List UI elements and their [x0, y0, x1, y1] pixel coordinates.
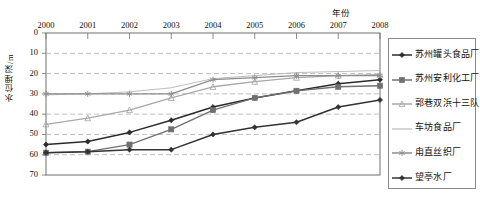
x-tick-label-2003: 2003	[151, 20, 191, 30]
y-tick-label-30: 30	[10, 88, 38, 98]
legend-item-label: 车坊食品厂	[415, 120, 461, 133]
y-tick-label-20: 20	[10, 68, 38, 78]
data-point-marker	[210, 107, 215, 112]
x-tick-label-2001: 2001	[68, 20, 108, 30]
y-tick-label-40: 40	[10, 108, 38, 118]
data-point-marker	[399, 52, 404, 57]
legend-item-label: 苏州安利化工厂	[415, 71, 479, 84]
x-tick-label-2007: 2007	[318, 20, 358, 30]
legend-item-label: 甪直丝织厂	[415, 145, 461, 158]
data-point-marker	[399, 77, 404, 82]
legend-marker-diamond-icon	[392, 170, 412, 182]
legend-marker-square-icon	[392, 72, 412, 84]
x-tick-label-2002: 2002	[110, 20, 150, 30]
legend-marker-diamond-icon	[392, 47, 412, 59]
legend-item-5[interactable]: 甪直丝织厂	[392, 139, 461, 163]
legend-marker-asterisk-icon	[392, 145, 412, 157]
legend-item-4[interactable]: 车坊食品厂	[392, 115, 461, 139]
y-tick-label-70: 70	[10, 169, 38, 179]
legend-item-label: 苏州罐头食品厂	[415, 47, 479, 60]
legend-item-6[interactable]: 望亭水厂	[392, 164, 452, 188]
legend-item-label: 郭巷双浜十三队	[415, 96, 479, 109]
legend-item-label: 望亭水厂	[415, 170, 452, 183]
x-axis-title: 年份	[332, 6, 351, 18]
x-tick-label-2004: 2004	[193, 20, 233, 30]
y-tick-label-60: 60	[10, 149, 38, 159]
data-point-marker	[377, 83, 382, 88]
data-point-marker	[252, 95, 257, 100]
y-tick-label-0: 0	[10, 27, 38, 37]
legend-marker-line-icon	[392, 121, 412, 133]
data-point-marker	[294, 88, 299, 93]
x-tick-label-2006: 2006	[277, 20, 317, 30]
y-tick-label-10: 10	[10, 47, 38, 57]
plot-frame	[46, 33, 380, 175]
legend-item-2[interactable]: 苏州安利化工厂	[392, 66, 479, 90]
data-point-marker	[169, 127, 174, 132]
legend-item-1[interactable]: 苏州罐头食品厂	[392, 41, 479, 65]
data-point-marker	[399, 175, 404, 180]
data-point-marker	[336, 84, 341, 89]
data-point-marker	[127, 142, 132, 147]
legend-item-3[interactable]: 郭巷双浜十三队	[392, 90, 479, 114]
legend-marker-triangle-icon	[392, 96, 412, 108]
legend: 苏州罐头食品厂苏州安利化工厂郭巷双浜十三队车坊食品厂甪直丝织厂望亭水厂	[388, 38, 476, 189]
y-tick-label-50: 50	[10, 128, 38, 138]
x-tick-label-2008: 2008	[360, 20, 400, 30]
x-tick-label-2005: 2005	[235, 20, 275, 30]
